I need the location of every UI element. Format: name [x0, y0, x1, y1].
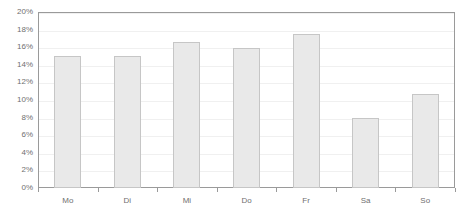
- bar-do[interactable]: [233, 48, 260, 188]
- x-axis-tick: [276, 188, 277, 192]
- x-axis-label-fr: Fr: [282, 196, 330, 206]
- x-axis-ticks: [38, 188, 455, 193]
- x-axis-label-di: Di: [103, 196, 151, 206]
- y-axis-tick-label: 8%: [0, 114, 33, 122]
- y-axis-tick-label: 6%: [0, 131, 33, 139]
- y-axis-tick-label: 2%: [0, 166, 33, 174]
- bar-so[interactable]: [412, 94, 439, 188]
- bar-sa[interactable]: [352, 118, 379, 188]
- y-axis-tick-label: 16%: [0, 43, 33, 51]
- x-axis-label-mi: Mi: [163, 196, 211, 206]
- x-axis-tick: [98, 188, 99, 192]
- x-axis-tick: [455, 188, 456, 192]
- x-axis-tick: [395, 188, 396, 192]
- y-axis-tick-label: 14%: [0, 61, 33, 69]
- bar-mo[interactable]: [54, 56, 81, 188]
- y-axis-tick-label: 0%: [0, 184, 33, 192]
- y-axis-tick-label: 4%: [0, 149, 33, 157]
- x-axis-tick: [157, 188, 158, 192]
- bar-fr[interactable]: [293, 34, 320, 188]
- y-axis-tick-label: 18%: [0, 26, 33, 34]
- x-axis: MoDiMiDoFrSaSo: [38, 196, 455, 210]
- bar-mi[interactable]: [173, 42, 200, 188]
- x-axis-tick: [38, 188, 39, 192]
- bar-chart: 0%2%4%6%8%10%12%14%16%18%20% MoDiMiDoFrS…: [0, 0, 473, 217]
- y-axis-tick-label: 20%: [0, 8, 33, 16]
- x-axis-label-sa: Sa: [342, 196, 390, 206]
- y-axis-tick-label: 12%: [0, 78, 33, 86]
- x-axis-label-do: Do: [223, 196, 271, 206]
- y-axis-tick-label: 10%: [0, 96, 33, 104]
- x-axis-tick: [217, 188, 218, 192]
- x-axis-tick: [336, 188, 337, 192]
- bars-group: [38, 12, 455, 188]
- x-axis-label-so: So: [401, 196, 449, 206]
- bar-di[interactable]: [114, 56, 141, 188]
- x-axis-label-mo: Mo: [44, 196, 92, 206]
